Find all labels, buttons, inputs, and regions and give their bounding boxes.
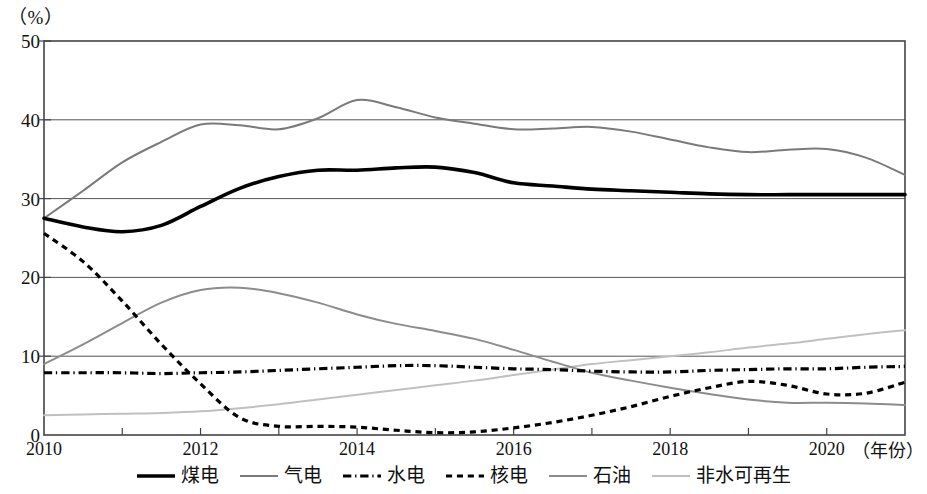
- legend-label-nonhydro_renewable: 非水可再生: [696, 466, 791, 485]
- plot-frame: [44, 41, 905, 435]
- legend-swatch-nonhydro_renewable: [651, 469, 691, 483]
- axis-frame: [44, 41, 905, 435]
- legend-swatch-coal: [136, 469, 176, 483]
- legend-item-oil[interactable]: 石油: [548, 466, 631, 485]
- series-line-gas: [44, 100, 905, 219]
- legend-label-nuclear: 核电: [490, 466, 528, 485]
- legend-item-hydro[interactable]: 水电: [342, 466, 425, 485]
- series-line-oil: [44, 287, 905, 405]
- plot-area: [0, 0, 927, 494]
- series-line-hydro: [44, 365, 905, 373]
- legend-item-nuclear[interactable]: 核电: [445, 466, 528, 485]
- legend-swatch-nuclear: [445, 469, 485, 483]
- legend-label-hydro: 水电: [387, 466, 425, 485]
- chart-legend: 煤电气电水电核电石油非水可再生: [0, 466, 927, 485]
- legend-item-coal[interactable]: 煤电: [136, 466, 219, 485]
- legend-item-nonhydro_renewable[interactable]: 非水可再生: [651, 466, 791, 485]
- legend-label-gas: 气电: [284, 466, 322, 485]
- data-series: [44, 100, 905, 433]
- legend-swatch-gas: [239, 469, 279, 483]
- legend-swatch-hydro: [342, 469, 382, 483]
- grid-lines: [44, 120, 905, 356]
- legend-label-oil: 石油: [593, 466, 631, 485]
- legend-label-coal: 煤电: [181, 466, 219, 485]
- legend-swatch-oil: [548, 469, 588, 483]
- legend-item-gas[interactable]: 气电: [239, 466, 322, 485]
- line-chart: （%） 01020304050 201020122014201620182020…: [0, 0, 927, 494]
- series-line-coal: [44, 167, 905, 232]
- x-axis-ticks: [38, 41, 827, 435]
